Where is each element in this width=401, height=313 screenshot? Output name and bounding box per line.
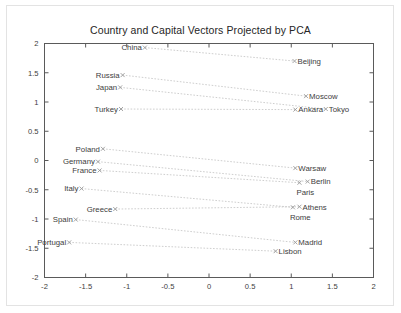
country-label: Italy (64, 184, 78, 193)
connector-line (82, 189, 293, 208)
country-label: Spain (53, 215, 73, 224)
capital-label: Madrid (298, 238, 322, 247)
x-tick-label: 0 (207, 282, 211, 291)
pca-scatter-plot: ChinaBeijingRussiaMoscowJapanTokyoTurkey… (0, 0, 401, 313)
connector-line (145, 48, 295, 61)
country-label: Greece (87, 205, 113, 214)
country-label: Germany (63, 157, 95, 166)
capital-label: Moscow (309, 92, 338, 101)
connector-line (120, 87, 326, 109)
figure-canvas: Country and Capital Vectors Projected by… (0, 0, 401, 313)
y-tick-label: 0.5 (28, 127, 39, 136)
country-label: Portugal (37, 238, 66, 247)
capital-label: Beijing (298, 57, 321, 66)
capital-marker (293, 240, 297, 244)
connector-line (115, 207, 299, 209)
country-label: Turkey (94, 105, 118, 114)
x-tick-label: 1.5 (327, 282, 338, 291)
capital-marker (291, 205, 295, 209)
capital-label: Rome (290, 213, 311, 222)
connector-line (123, 75, 306, 96)
connector-line (103, 149, 295, 168)
connector-line (100, 170, 300, 182)
y-tick-label: 1 (34, 98, 38, 107)
connector-line (76, 220, 296, 243)
y-tick-label: -2 (32, 273, 39, 282)
country-label: Russia (96, 71, 120, 80)
x-tick-label: 2 (371, 282, 375, 291)
y-tick-label: 0 (34, 156, 38, 165)
x-tick-label: -1 (123, 282, 130, 291)
capital-label: Tokyo (329, 105, 350, 114)
capital-label: Ankara (298, 105, 323, 114)
x-tick-label: 1 (289, 282, 293, 291)
country-label: Poland (76, 145, 100, 154)
capital-label: Lisbon (279, 247, 302, 256)
capital-label: Warsaw (298, 164, 326, 173)
y-tick-label: -1 (32, 215, 39, 224)
country-label: France (72, 166, 96, 175)
x-tick-label: -0.5 (161, 282, 174, 291)
capital-marker (293, 59, 297, 63)
capital-label: Paris (296, 188, 314, 197)
x-tick-label: 0.5 (245, 282, 256, 291)
country-label: Japan (96, 83, 117, 92)
y-tick-label: -1.5 (25, 244, 38, 253)
y-tick-label: 1.5 (28, 69, 39, 78)
capital-label: Berlin (311, 177, 331, 186)
data-point-labels: ChinaBeijingRussiaMoscowJapanTokyoTurkey… (37, 43, 350, 256)
connector-line (121, 109, 295, 110)
connector-line (69, 242, 275, 251)
connector-line (98, 162, 308, 182)
y-tick-label: -0.5 (25, 186, 38, 195)
x-tick-label: -1.5 (79, 282, 92, 291)
capital-label: Athens (302, 203, 326, 212)
x-tick-label: -2 (41, 282, 48, 291)
y-tick-label: 2 (34, 39, 38, 48)
country-label: China (121, 43, 142, 52)
